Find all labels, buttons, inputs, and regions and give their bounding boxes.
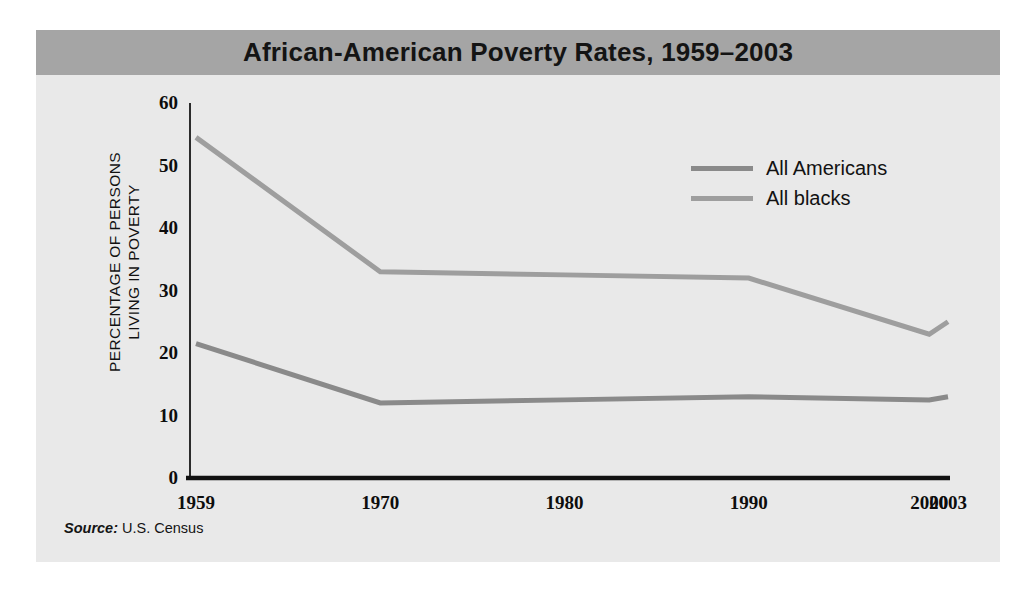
chart-figure: African-American Poverty Rates, 1959–200… [36, 30, 1000, 562]
source-label: Source: [64, 520, 118, 536]
legend-line-swatch [691, 196, 753, 201]
data-line-all-americans [196, 344, 948, 403]
chart-title-band: African-American Poverty Rates, 1959–200… [36, 30, 1000, 75]
source-note: Source: U.S. Census [64, 520, 203, 536]
page-title: African-American Poverty Rates, 1959–200… [243, 37, 793, 68]
legend-line-swatch [691, 166, 753, 171]
chart-legend: All AmericansAll blacks [691, 153, 887, 213]
legend-label: All Americans [766, 157, 887, 180]
source-value: U.S. Census [122, 520, 203, 536]
plot-canvas [36, 75, 1000, 562]
legend-item: All Americans [691, 153, 887, 183]
legend-item: All blacks [691, 183, 887, 213]
plot-region: PERCENTAGE OF PERSONS LIVING IN POVERTY … [36, 75, 1000, 562]
legend-label: All blacks [766, 187, 850, 210]
